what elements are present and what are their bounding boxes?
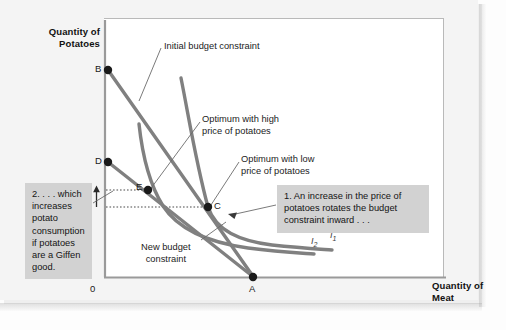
annotation-initial-budget-constraint: Initial budget constraint [164,41,260,53]
point-marker-E [144,186,152,194]
annotation-optimum-high-price: Optimum with high price of potatoes [202,114,279,138]
point-label-E: E [136,181,142,192]
leader-initial-budget-constraint [139,48,161,101]
point-marker-D [104,158,112,166]
point-label-B: B [95,63,101,74]
point-label-A: A [249,283,255,294]
y-axis-title: Quantity of Potatoes [28,26,100,49]
point-marker-C [204,203,212,211]
point-marker-A [249,273,257,281]
curve-label-i2: I2 [311,236,317,248]
figure-root: Quantity of Potatoes Quantity of Meat 0 … [0,0,506,330]
x-axis-title: Quantity of Meat [432,280,496,303]
origin-label: 0 [90,283,95,294]
annotation-new-budget-constraint: New budget constraint [141,242,191,266]
textbox-giffen-good: 2. . . . which increases potato consumpt… [25,183,92,279]
annotation-optimum-low-price: Optimum with low price of potatoes [241,154,314,178]
curve-label-i1-subscript: 1 [333,235,337,242]
point-marker-B [104,66,112,74]
arrow-budget-rotation [228,213,237,220]
textbox-price-increase: 1. An increase in the price of potatoes … [277,185,429,233]
leader-optimum-high-price [149,122,200,191]
curve-label-i2-subscript: 2 [314,241,318,248]
point-label-C: C [214,200,221,211]
point-label-D: D [95,155,102,166]
leader-textbox-right [231,205,276,215]
up-arrow-indicator [93,186,100,208]
